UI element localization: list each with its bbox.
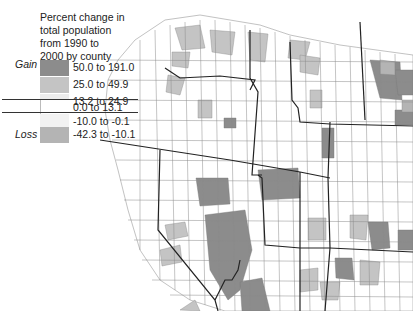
legend-gain-label: Gain <box>15 58 37 70</box>
legend-class-label: -42.3 to -10.1 <box>73 128 135 140</box>
legend-class-label: -10.0 to -0.1 <box>73 115 130 127</box>
legend-class: 50.0 to 191.0 <box>40 60 138 76</box>
legend-class: 25.0 to 49.9 <box>40 77 138 93</box>
legend-loss-label: Loss <box>15 128 37 140</box>
legend-swatch <box>40 60 69 76</box>
legend-title-line: Percent change in <box>40 11 140 24</box>
legend-divider <box>2 112 138 113</box>
legend-class: -42.3 to -10.1 <box>40 127 138 143</box>
legend-class-label: 25.0 to 49.9 <box>73 78 128 90</box>
legend: Percent change in total population from … <box>0 0 140 160</box>
legend-title-line: total population <box>40 24 140 37</box>
legend-class-label: 50.0 to 191.0 <box>73 61 134 73</box>
legend-swatch <box>40 77 69 93</box>
legend-swatch <box>40 127 69 143</box>
legend-title: Percent change in total population from … <box>40 11 140 63</box>
legend-title-line: from 1990 to <box>40 37 140 50</box>
